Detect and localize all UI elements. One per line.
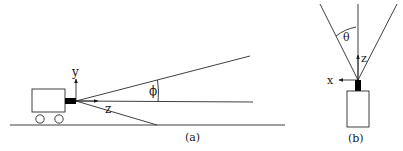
theta-angle-label: θ bbox=[343, 31, 350, 44]
phi-angle-arc bbox=[158, 80, 159, 102]
x-axis-label: x bbox=[327, 74, 334, 87]
optical-axis-side bbox=[76, 101, 253, 102]
fov-left-ray bbox=[320, 4, 358, 80]
panel-a-caption: (a) bbox=[185, 131, 200, 144]
fov-lower-ray bbox=[76, 101, 157, 125]
cart-wheel-rear bbox=[36, 115, 44, 123]
camera-block-side bbox=[65, 98, 76, 104]
camera-fov-diagram: y z ϕ (a) θ z x (b) bbox=[0, 0, 403, 151]
cart-wheel-front bbox=[55, 115, 63, 123]
panel-b: θ z x (b) bbox=[320, 4, 397, 145]
panel-a: y z ϕ (a) bbox=[10, 56, 285, 144]
z-axis-label-top: z bbox=[361, 52, 367, 65]
phi-angle-label: ϕ bbox=[149, 84, 157, 98]
z-axis-label-side: z bbox=[105, 102, 111, 116]
camera-block-top bbox=[355, 80, 361, 91]
fov-right-ray bbox=[358, 4, 397, 80]
cart bbox=[32, 89, 65, 123]
panel-b-caption: (b) bbox=[348, 132, 364, 145]
cart-body bbox=[32, 89, 65, 112]
fov-upper-ray bbox=[76, 56, 250, 101]
body-box-top bbox=[347, 91, 369, 127]
y-axis-label: y bbox=[71, 65, 79, 79]
